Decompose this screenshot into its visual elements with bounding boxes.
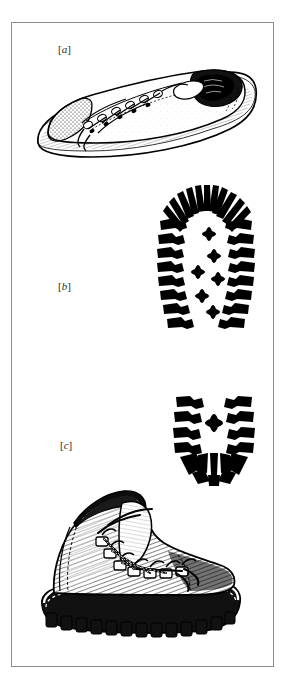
figure-label-c: [c] — [60, 440, 72, 451]
boot-sole-forefoot-print-icon — [154, 181, 258, 336]
hiking-boot-icon — [18, 473, 258, 653]
label-c-close-bracket: ] — [69, 439, 73, 451]
figure-label-b: [b] — [58, 281, 71, 292]
label-b-close-bracket: ] — [67, 280, 71, 292]
sneaker-icon — [26, 47, 262, 165]
figure-plate: [a] — [11, 22, 274, 667]
